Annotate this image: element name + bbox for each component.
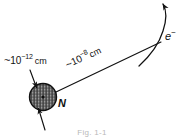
nucleus-size-leader-lower <box>39 109 46 131</box>
nucleus-size-leader-upper <box>30 70 37 88</box>
nucleus-disc <box>30 84 57 111</box>
figure-caption: Fig. 1-1 <box>0 128 184 137</box>
nucleus-size-exponent: −12 <box>21 53 33 60</box>
electron-symbol-label: e− <box>165 31 176 42</box>
figure-drawing <box>0 0 184 137</box>
nucleus-size-label: ~10−12cm <box>4 55 47 66</box>
nucleus-size-base: 10 <box>10 55 21 66</box>
atomic-structure-figure: ~10−12cm ~10−8cm N e− Fig. 1-1 <box>0 0 184 137</box>
nucleus-size-unit: cm <box>35 56 47 66</box>
electron-orbit-arc <box>139 4 166 66</box>
nucleus-symbol-label: N <box>58 98 66 109</box>
electron-charge-sign: − <box>171 28 176 37</box>
nucleus-center-dot <box>41 95 44 98</box>
